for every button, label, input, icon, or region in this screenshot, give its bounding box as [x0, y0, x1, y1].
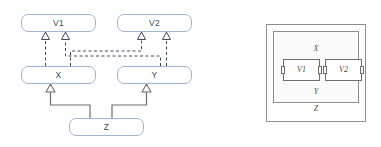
- nesting-label-y: Y: [274, 88, 358, 96]
- uml-node-v2-label: V2: [149, 19, 160, 28]
- uml-node-v1-label: V1: [53, 19, 64, 28]
- edge-x-to-v2: [71, 39, 142, 66]
- port-v1-right[interactable]: [318, 66, 322, 74]
- arrowhead-y-v1: [62, 32, 70, 40]
- uml-node-y-label: Y: [152, 71, 158, 80]
- edge-z-to-y: [112, 92, 147, 119]
- uml-node-x-label: X: [56, 71, 62, 80]
- arrowhead-z-x: [46, 84, 55, 92]
- nesting-middle-box-xy[interactable]: X Y V1 V2: [273, 31, 359, 103]
- uml-node-z[interactable]: Z: [69, 118, 144, 136]
- uml-node-y[interactable]: Y: [117, 66, 192, 84]
- edge-y-to-v1: [66, 39, 161, 66]
- uml-node-v2[interactable]: V2: [117, 14, 192, 32]
- uml-node-v1[interactable]: V1: [21, 14, 96, 32]
- arrowhead-z-y: [142, 84, 151, 92]
- arrowhead-x-v1: [42, 32, 50, 40]
- nesting-inner-box-v2-label: V2: [339, 66, 348, 74]
- port-v2-left[interactable]: [323, 66, 327, 74]
- nesting-inner-box-v2[interactable]: V2: [325, 59, 362, 81]
- uml-node-x[interactable]: X: [21, 66, 96, 84]
- nesting-label-x: X: [274, 45, 358, 53]
- port-v2-right[interactable]: [360, 66, 364, 74]
- figure-canvas: V1 V2 X Y Z X Y V1 V2: [0, 0, 381, 147]
- nesting-label-z: Z: [267, 105, 365, 113]
- nesting-inner-box-v1-label: V1: [297, 66, 306, 74]
- arrowhead-x-v2: [138, 32, 146, 40]
- nesting-inner-box-v1[interactable]: V1: [283, 59, 320, 81]
- uml-node-z-label: Z: [104, 123, 110, 132]
- edge-z-to-x: [51, 92, 91, 119]
- port-v1-left[interactable]: [281, 66, 285, 74]
- arrowhead-y-v2: [163, 32, 171, 40]
- nesting-outer-box-z[interactable]: X Y V1 V2 Z: [266, 24, 366, 122]
